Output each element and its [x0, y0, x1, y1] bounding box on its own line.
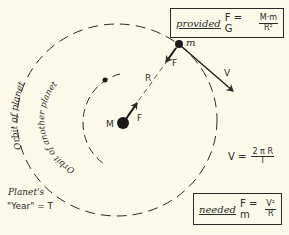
- force-on-central-mass-label: F: [137, 114, 142, 123]
- velocity-label: V: [224, 69, 230, 78]
- planet-year-label-line2: "Year" = T: [7, 202, 53, 211]
- velocity-denominator: T: [259, 157, 266, 165]
- needed-denominator: R: [267, 210, 275, 218]
- needed-lhs: F = m: [240, 198, 259, 220]
- velocity-lhs: V =: [228, 152, 246, 162]
- force-on-planet-label: F: [172, 59, 177, 68]
- radius-label: R: [145, 74, 151, 83]
- velocity-formula: V = 2 π R T: [228, 148, 274, 166]
- orbit-of-another-planet-label: Orbit of another planet: [36, 79, 76, 176]
- provided-denominator: R²: [263, 24, 274, 32]
- needed-fraction: V² R: [265, 200, 276, 218]
- provided-keyword: provided: [176, 18, 221, 29]
- needed-formula-box: needed F = m V² R: [193, 193, 282, 225]
- planet-year-label-line1: Planet's: [8, 188, 44, 197]
- another-planet: [103, 78, 108, 83]
- velocity-fraction: 2 π R T: [251, 148, 274, 166]
- orbit-of-planet-label: Orbit of planet: [9, 80, 27, 151]
- central-mass-label: M: [106, 120, 114, 129]
- provided-formula-box: provided F = G M·m R²: [170, 8, 284, 38]
- force-arrow-on-central-mass: [126, 103, 137, 119]
- planet-orbit: [17, 24, 217, 216]
- needed-keyword: needed: [199, 204, 236, 215]
- provided-lhs: F = G: [225, 12, 253, 34]
- planet-label: m: [186, 38, 195, 48]
- another-planet-orbit: [83, 74, 120, 164]
- provided-fraction: M·m R²: [259, 14, 278, 32]
- orbit-diagram: Orbit of planet Orbit of another planet …: [0, 0, 289, 235]
